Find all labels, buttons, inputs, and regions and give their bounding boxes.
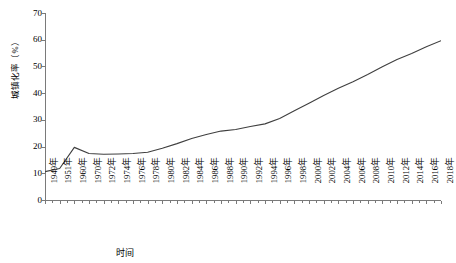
x-tick-label-2006年: 2006年: [357, 157, 368, 203]
x-tick-label-1972年: 1972年: [107, 157, 118, 203]
x-tick-label-1986年: 1986年: [210, 157, 221, 203]
x-tick-label-2012年: 2012年: [401, 157, 412, 203]
x-tick-label-1984年: 1984年: [195, 157, 206, 203]
x-tick-label-2018年: 2018年: [445, 157, 456, 203]
x-tick-label-1951年: 1951年: [63, 157, 74, 203]
x-tick-label-1988年: 1988年: [225, 157, 236, 203]
urbanization-rate-line-chart: 城镇化率（%） 010203040506070 1949年1951年1960年1…: [0, 0, 456, 263]
x-tick-label-1998年: 1998年: [298, 157, 309, 203]
x-axis-tick-labels: 1949年1951年1960年1970年1972年1974年1976年1978年…: [0, 0, 456, 263]
x-tick-label-1990年: 1990年: [239, 157, 250, 203]
x-tick-label-1982年: 1982年: [181, 157, 192, 203]
x-tick-label-2016年: 2016年: [430, 157, 441, 203]
x-tick-label-1949年: 1949年: [49, 157, 60, 203]
x-tick-label-1978年: 1978年: [151, 157, 162, 203]
x-tick-label-1970年: 1970年: [93, 157, 104, 203]
x-tick-label-1994年: 1994年: [269, 157, 280, 203]
x-tick-label-2000年: 2000年: [313, 157, 324, 203]
x-tick-label-1980年: 1980年: [166, 157, 177, 203]
x-tick-label-2010年: 2010年: [386, 157, 397, 203]
x-tick-label-2008年: 2008年: [371, 157, 382, 203]
x-tick-label-1992年: 1992年: [254, 157, 265, 203]
x-tick-label-1960年: 1960年: [78, 157, 89, 203]
x-tick-label-1996年: 1996年: [283, 157, 294, 203]
x-tick-label-1976年: 1976年: [137, 157, 148, 203]
x-tick-label-2004年: 2004年: [342, 157, 353, 203]
x-tick-label-2014年: 2014年: [415, 157, 426, 203]
x-tick-label-2002年: 2002年: [327, 157, 338, 203]
x-axis-title: 时间: [0, 246, 250, 259]
x-tick-label-1974年: 1974年: [122, 157, 133, 203]
